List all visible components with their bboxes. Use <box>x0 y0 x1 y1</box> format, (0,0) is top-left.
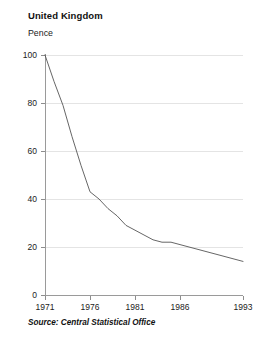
x-tick-1981 <box>135 296 136 300</box>
y-tick-label-60: 60 <box>3 146 37 156</box>
x-tick-1976 <box>90 296 91 300</box>
x-tick-label-1993: 1993 <box>223 302 253 312</box>
y-tick-label-0: 0 <box>3 290 37 300</box>
x-tick-label-1971: 1971 <box>25 302 65 312</box>
source-note: Source: Central Statistical Office <box>28 318 155 327</box>
chart-figure: United Kingdom Pence 020406080100 197119… <box>0 0 253 340</box>
x-tick-1993 <box>243 296 244 300</box>
y-tick-label-100: 100 <box>3 50 37 60</box>
x-tick-label-1981: 1981 <box>115 302 155 312</box>
y-axis-label: Pence <box>28 28 53 38</box>
y-tick-label-80: 80 <box>3 98 37 108</box>
y-tick-label-40: 40 <box>3 194 37 204</box>
x-tick-label-1976: 1976 <box>70 302 110 312</box>
y-tick-label-20: 20 <box>3 242 37 252</box>
plot-area <box>45 55 243 295</box>
x-tick-label-1986: 1986 <box>160 302 200 312</box>
chart-title: United Kingdom <box>28 10 103 21</box>
x-axis-line <box>45 295 243 296</box>
x-tick-1986 <box>180 296 181 300</box>
x-tick-1971 <box>45 296 46 300</box>
series-line-purchasing-power <box>45 55 243 261</box>
series-line-group <box>45 55 243 295</box>
